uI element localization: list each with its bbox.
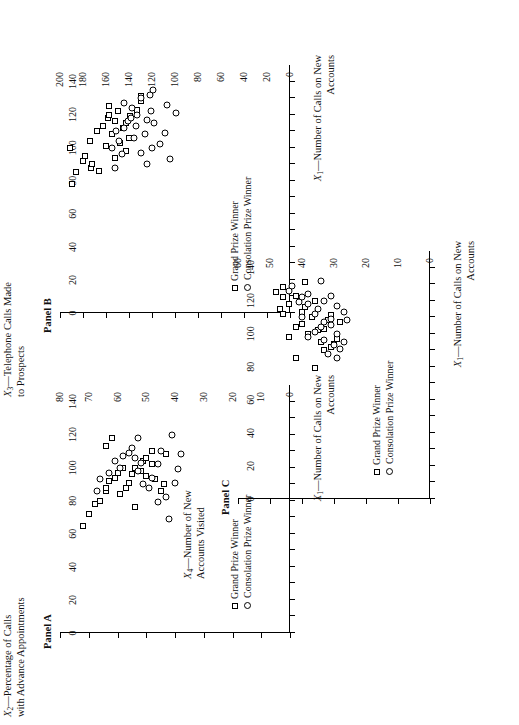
x-axis-tick [290, 549, 295, 550]
data-point [147, 108, 154, 115]
data-point [305, 291, 312, 298]
data-point [105, 469, 112, 476]
x-axis-tick [430, 316, 435, 317]
data-point [73, 169, 79, 175]
data-point [100, 123, 106, 129]
data-point [293, 324, 299, 330]
panel-c: X4—Number of NewAccounts Visited Panel C… [200, 227, 510, 537]
square-marker-icon [232, 603, 238, 609]
figure-page: X2—Percentage of Callswith Advance Appoi… [0, 0, 519, 725]
y-axis-tick [60, 313, 61, 318]
data-point [103, 443, 109, 449]
data-point [137, 459, 144, 466]
data-point [121, 100, 128, 107]
panel-b-x-axis-title: X1—Number of Calls on NewAccounts [312, 55, 338, 245]
data-point [108, 144, 115, 151]
y-title-line1-a: —Percentage of Calls [2, 615, 13, 707]
x-axis-tick [290, 130, 295, 131]
data-point [89, 161, 95, 167]
data-point [119, 151, 126, 158]
data-point [299, 321, 305, 327]
panel-b-y-axis-title: X3—Telephone Calls Madeto Prospects [2, 282, 28, 397]
data-point [87, 138, 93, 144]
scatter-points-layer [238, 251, 430, 499]
x-axis-tick [290, 163, 295, 164]
data-point [86, 511, 92, 517]
data-point [166, 515, 173, 522]
data-point [177, 451, 184, 458]
circle-marker-icon [244, 602, 251, 609]
data-point [273, 289, 279, 295]
x-title-line1-b: —Number of Calls on New [312, 55, 323, 171]
data-point [106, 112, 112, 118]
data-point [280, 294, 286, 300]
x-title-line2-c: Accounts [465, 241, 476, 281]
data-point [143, 455, 149, 461]
x-axis-tick [430, 283, 435, 284]
data-point [128, 444, 135, 451]
data-point [149, 448, 155, 454]
data-point [161, 481, 167, 487]
legend-label-consolation-c: Consolation Prize Winner [383, 361, 396, 464]
data-point [69, 181, 75, 187]
data-point [97, 498, 103, 504]
data-point [109, 435, 115, 441]
square-marker-icon [374, 469, 380, 475]
data-point [286, 301, 292, 307]
data-point [137, 149, 144, 156]
data-point [115, 108, 121, 114]
data-point [117, 491, 123, 497]
data-point [157, 141, 164, 148]
data-point [132, 504, 138, 510]
data-point [163, 494, 170, 501]
data-point [286, 334, 292, 340]
panel-c-title: Panel C [220, 480, 231, 515]
data-point [302, 279, 308, 285]
x-axis-tick [430, 448, 435, 449]
data-point [142, 131, 149, 138]
y-title-line2-a: with Advance Appointments [15, 597, 26, 717]
y-var-c: X4 [182, 569, 193, 579]
data-point [327, 322, 334, 329]
data-point [149, 144, 156, 151]
data-point [97, 476, 104, 483]
data-point [321, 297, 328, 304]
panel-c-legend: Grand Prize Winner Consolation Prize Win… [370, 361, 396, 475]
x-var-b: X1 [312, 171, 323, 181]
data-point [137, 95, 144, 102]
data-point [312, 365, 318, 371]
page-frame: X2—Percentage of Callswith Advance Appoi… [0, 0, 519, 725]
y-var-a: X2 [2, 707, 13, 717]
data-point [167, 156, 174, 163]
data-point [163, 101, 170, 108]
data-point [321, 337, 328, 344]
x-title-line2-b: Accounts [325, 55, 336, 95]
data-point [82, 153, 88, 159]
data-point [163, 451, 169, 457]
data-point [126, 480, 132, 486]
x-axis-tick [290, 196, 295, 197]
data-point [334, 302, 341, 309]
data-point [149, 474, 156, 481]
data-point [324, 350, 331, 357]
data-point [293, 355, 299, 361]
data-point [305, 300, 312, 307]
x-axis-tick [290, 615, 295, 616]
x-var-c: X1 [452, 357, 463, 367]
y-title-line1-b: —Telephone Calls Made [2, 282, 13, 387]
data-point [154, 499, 161, 506]
panel-a-y-axis-title: X2—Percentage of Callswith Advance Appoi… [2, 597, 28, 717]
y-axis-tick [238, 499, 239, 504]
y-axis-tick [60, 633, 61, 638]
data-point [144, 161, 151, 168]
y-title-line2-b: to Prospects [15, 346, 26, 397]
panel-a-title: Panel A [42, 614, 53, 649]
data-point [337, 345, 344, 352]
data-point [334, 355, 341, 362]
legend-row-consolation-c: Consolation Prize Winner [383, 361, 396, 475]
data-point [277, 306, 283, 312]
panel-b-title: Panel B [42, 298, 53, 333]
data-point [67, 145, 73, 151]
data-point [154, 461, 161, 468]
data-point [146, 484, 153, 491]
